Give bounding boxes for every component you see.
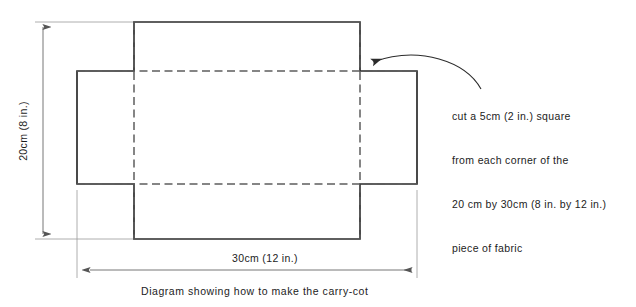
annotation-line-1: cut a 5cm (2 in.) square	[452, 109, 606, 124]
fabric-outline-path	[77, 22, 417, 239]
width-dimension-label: 30cm (12 in.)	[232, 252, 298, 264]
height-dimension-label: 20cm (8 in.)	[17, 86, 29, 176]
diagram-figure: cut a 5cm (2 in.) square from each corne…	[0, 0, 636, 307]
annotation-line-3: 20 cm by 30cm (8 in. by 12 in.)	[452, 197, 606, 212]
cut-corner-annotation: cut a 5cm (2 in.) square from each corne…	[452, 80, 606, 284]
annotation-line-4: piece of fabric	[452, 241, 606, 256]
annotation-line-2: from each corner of the	[452, 153, 606, 168]
diagram-caption: Diagram showing how to make the carry-co…	[141, 285, 368, 297]
